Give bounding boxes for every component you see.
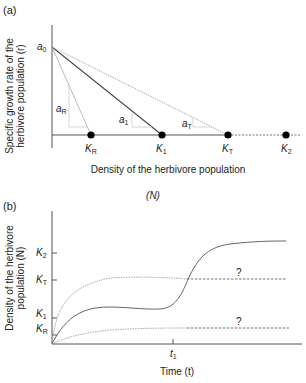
ytick-K1-label: K1	[36, 308, 47, 320]
K1-label: K1	[156, 143, 167, 155]
point-KT	[224, 131, 231, 138]
panel-b-ylabel: Density of the herbivore population (N)	[4, 225, 26, 331]
K2-label: K2	[281, 143, 292, 155]
KR-label: KR	[85, 143, 97, 155]
panel-a-xlabel-var: (N)	[146, 190, 160, 201]
panel-a-xlabel: Density of the herbivore population	[91, 164, 246, 175]
curve-KR	[52, 328, 187, 344]
line-aR	[52, 47, 91, 135]
aR-label: aR	[56, 103, 67, 115]
svg-text:herbivore population (r): herbivore population (r)	[15, 44, 26, 147]
panel-b-label: (b)	[3, 200, 16, 212]
line-aT	[52, 47, 228, 135]
panel-a-ylabel: Specific growth rate of the herbivore po…	[4, 38, 26, 154]
aT-label: aT	[182, 118, 193, 130]
figure: (a) Specific growth rate of the herbivor…	[0, 0, 306, 383]
unknown-mark-KR: ?	[236, 316, 242, 327]
a1-label: a1	[119, 114, 129, 126]
unknown-mark-KT: ?	[236, 267, 242, 278]
ytick-KT-label: KT	[36, 274, 48, 286]
point-K1	[158, 131, 165, 138]
panel-b-xlabel: Time (t)	[160, 366, 194, 377]
line-a1	[52, 47, 162, 135]
a0-label: a0	[37, 41, 47, 53]
panel-a-label: (a)	[3, 4, 16, 16]
svg-text:population (N): population (N)	[15, 247, 26, 310]
svg-text:Density of the herbivore: Density of the herbivore	[4, 225, 15, 331]
curve-KT	[52, 277, 187, 344]
point-K2	[282, 131, 289, 138]
t1-label: t1	[170, 348, 177, 360]
svg-text:Specific growth rate of the: Specific growth rate of the	[4, 38, 15, 154]
ytick-KR-label: KR	[36, 323, 48, 335]
point-KR	[87, 131, 94, 138]
ytick-K2-label: K2	[36, 247, 47, 259]
KT-label: KT	[222, 143, 234, 155]
